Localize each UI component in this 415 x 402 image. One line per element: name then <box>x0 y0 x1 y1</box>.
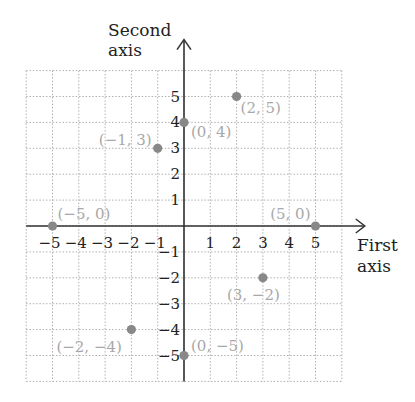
point-label: (−5, 0) <box>58 205 111 223</box>
data-point <box>311 221 320 230</box>
point-label: (−1, 3) <box>99 131 152 149</box>
data-point <box>179 118 188 127</box>
x-tick-label: 3 <box>258 234 268 252</box>
x-tick-label: 4 <box>284 234 294 252</box>
y-axis-label-line1: Second <box>108 20 171 40</box>
x-tick-label: −3 <box>91 234 113 252</box>
x-tick-label: 2 <box>232 234 242 252</box>
data-point <box>127 325 136 334</box>
x-axis-label-line2: axis <box>357 256 391 276</box>
data-point <box>179 351 188 360</box>
x-tick-label: 1 <box>206 234 216 252</box>
y-tick-label: 4 <box>170 113 180 131</box>
y-tick-label: 5 <box>170 88 180 106</box>
y-tick-label: 2 <box>170 165 180 183</box>
y-axis-label-line2: axis <box>108 40 142 60</box>
point-label: (0, −5) <box>191 337 244 355</box>
point-label: (2, 5) <box>241 99 281 117</box>
data-point <box>48 221 57 230</box>
x-tick-label: 5 <box>311 234 321 252</box>
y-tick-label: −2 <box>158 269 180 287</box>
point-label: (0, 4) <box>191 123 231 141</box>
y-tick-label: 1 <box>170 191 180 209</box>
data-point <box>153 144 162 153</box>
data-point <box>258 273 267 282</box>
point-label: (−2, −4) <box>56 338 121 356</box>
x-tick-label: −2 <box>117 234 139 252</box>
x-axis-label-line1: First <box>357 235 398 255</box>
y-tick-label: 3 <box>170 139 180 157</box>
y-tick-label: −3 <box>158 295 180 313</box>
x-tick-label: −5 <box>38 234 60 252</box>
coordinate-plane: −5−4−3−2−112345−5−4−3−2−112345 (2, 5)(0,… <box>0 0 415 402</box>
y-tick-label: −1 <box>158 243 180 261</box>
y-tick-label: −5 <box>158 347 180 365</box>
point-label: (3, −2) <box>227 286 280 304</box>
point-label: (5, 0) <box>270 205 310 223</box>
y-tick-label: −4 <box>158 321 180 339</box>
x-tick-label: −4 <box>65 234 87 252</box>
